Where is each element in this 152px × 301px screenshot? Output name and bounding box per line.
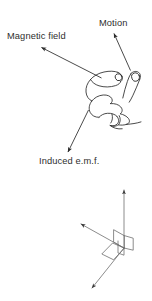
hand-diagram-svg (0, 0, 152, 180)
axes-diagram-panel (0, 180, 152, 301)
axes-diagram-svg (0, 180, 152, 301)
induced-emf-arrow (68, 110, 89, 152)
motion-arrow (114, 34, 131, 71)
figure-root: Magnetic field Motion Induced e.m.f. (0, 0, 152, 301)
magnetic-field-arrow (42, 48, 102, 79)
axis-down-left-arrow (92, 248, 124, 288)
motion-label: Motion (99, 18, 128, 29)
magnetic-field-label: Magnetic field (7, 31, 66, 42)
induced-emf-label: Induced e.m.f. (39, 156, 99, 167)
thumb-outline (123, 71, 141, 102)
right-angle-marker-1 (114, 230, 124, 248)
right-angle-marker-2 (124, 236, 133, 251)
hand-diagram-panel: Magnetic field Motion Induced e.m.f. (0, 0, 152, 180)
right-angle-marker-3 (102, 243, 124, 260)
